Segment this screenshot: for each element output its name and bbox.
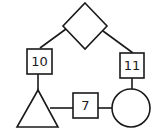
box-node-11: 11 [120, 53, 144, 78]
edge-diamond-box10 [40, 29, 66, 48]
diagram-canvas: 10 11 7 [0, 0, 156, 134]
box-node-10: 10 [27, 49, 52, 74]
box-node-7: 7 [73, 93, 98, 118]
box-label-11: 11 [124, 58, 141, 73]
box-label-10: 10 [31, 54, 48, 69]
box-label-7: 7 [81, 98, 89, 113]
circle-node [112, 89, 150, 127]
edge-diamond-box11 [103, 31, 133, 53]
diamond-node [63, 3, 107, 49]
